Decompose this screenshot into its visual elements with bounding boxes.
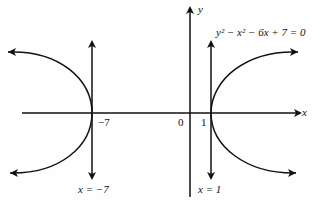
origin-label: 0 <box>178 116 184 128</box>
equation-label: y² − x² − 6x + 7 = 0 <box>216 26 305 38</box>
line-label-x-minus-7: x = −7 <box>78 183 109 195</box>
y-axis-label: y <box>198 3 203 15</box>
x-axis-label: x <box>302 106 307 118</box>
tick-label-minus-7: −7 <box>98 116 110 128</box>
hyperbola-diagram: y x y² − x² − 6x + 7 = 0 0 −7 1 x = −7 x… <box>0 0 312 200</box>
tick-label-1: 1 <box>201 116 207 128</box>
line-label-x-1: x = 1 <box>198 183 221 195</box>
